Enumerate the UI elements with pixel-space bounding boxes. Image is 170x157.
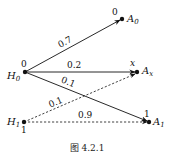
node-name-ax: Ax <box>141 65 153 78</box>
node-value-a0: 0 <box>112 7 118 17</box>
node-ax <box>135 70 139 74</box>
edge-label-h0-ax: 0.2 <box>67 60 81 70</box>
node-a0 <box>120 17 124 21</box>
node-value-ax: x <box>130 58 135 68</box>
node-a1 <box>147 120 151 124</box>
node-value-h0: 0 <box>21 59 27 69</box>
node-name-h0: H0 <box>6 70 21 83</box>
edge-label-h1-ax: 0.1 <box>47 95 64 110</box>
edge-label-h0-a0: 0.7 <box>56 34 74 50</box>
node-name-a0: A0 <box>126 13 139 26</box>
node-name-a1: A1 <box>152 116 165 129</box>
node-value-a1: 1 <box>144 109 150 119</box>
edge-label-h1-a1: 0.9 <box>78 110 93 120</box>
figure-caption: 图 4.2.1 <box>70 143 105 153</box>
node-name-h1: H1 <box>6 116 20 129</box>
channel-diagram: 0.7 0.2 0.1 0.1 0.9 0 1 0 x 1 H0 H1 A0 A… <box>0 0 170 157</box>
node-value-h1: 1 <box>21 125 27 135</box>
node-h0 <box>23 70 27 74</box>
node-h1 <box>22 120 26 124</box>
